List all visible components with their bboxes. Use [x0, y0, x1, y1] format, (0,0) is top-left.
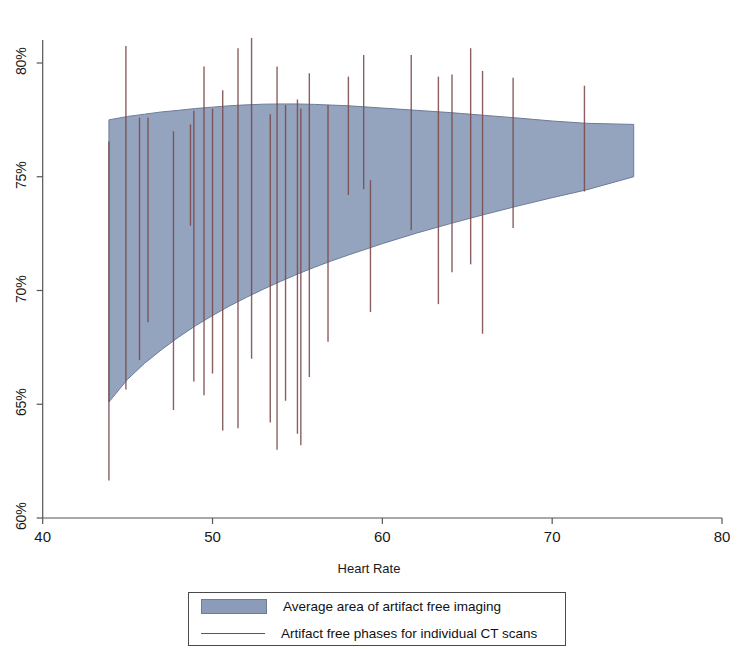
average-area-band [109, 104, 634, 402]
plot-area: 60%65%70%75%80% 4050607080 [0, 0, 738, 540]
y-axis-tick-label: 60% [6, 507, 36, 529]
legend-label-ct-scan-phases: Artifact free phases for individual CT s… [281, 626, 537, 641]
legend-swatch-line-icon [201, 627, 265, 640]
legend-label-average-area: Average area of artifact free imaging [283, 599, 501, 614]
x-axis-tick-label: 40 [18, 528, 68, 545]
x-axis-tick-label: 50 [188, 528, 238, 545]
y-axis-tick-label: 75% [6, 166, 36, 188]
y-axis-tick-label: 80% [6, 52, 36, 74]
legend-swatch-box-icon [201, 599, 267, 614]
legend-item-ct-scan-phases: Artifact free phases for individual CT s… [189, 620, 565, 647]
chart-legend: Average area of artifact free imaging Ar… [188, 592, 566, 646]
y-axis-tick-label: 70% [6, 280, 36, 302]
chart-canvas [0, 0, 738, 540]
x-axis-title: Heart Rate [0, 561, 738, 576]
x-axis-tick-label: 80 [697, 528, 738, 545]
y-axis-tick-label: 65% [6, 393, 36, 415]
x-axis-tick-label: 60 [357, 528, 407, 545]
legend-item-average-area: Average area of artifact free imaging [189, 593, 565, 620]
chart-root: 60%65%70%75%80% 4050607080 Heart Rate Av… [0, 0, 738, 649]
x-axis-tick-label: 70 [527, 528, 577, 545]
